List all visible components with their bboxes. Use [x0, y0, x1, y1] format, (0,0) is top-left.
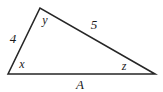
angle-label-z: z	[122, 60, 127, 72]
triangle-outline	[8, 8, 155, 74]
angle-label-x: x	[19, 58, 24, 70]
side-label-left-4: 4	[10, 32, 17, 45]
triangle-figure: 4 5 A x y z	[0, 0, 163, 92]
angle-label-y: y	[42, 14, 47, 26]
side-label-base-A: A	[76, 78, 84, 91]
side-label-top-right-5: 5	[91, 18, 98, 31]
